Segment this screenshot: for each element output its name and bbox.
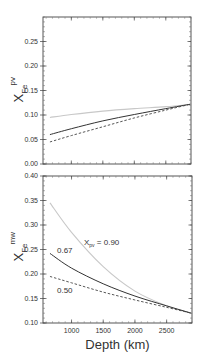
y-tick-label: 0.10 <box>24 319 38 326</box>
x-tick-label: 1000 <box>64 327 80 334</box>
plot-frame <box>43 17 191 164</box>
series-line <box>50 104 190 134</box>
y-tick-label: 0.30 <box>24 221 38 228</box>
y-tick-label: 0.35 <box>24 197 38 204</box>
chart-figure: 0.000.050.100.150.200.25XFepv 0.100.150.… <box>0 0 201 353</box>
y-tick-label: 0.40 <box>24 172 38 179</box>
y-tick-label: 0.20 <box>24 270 38 277</box>
bottom-panel: 0.100.150.200.250.300.350.40100015002000… <box>8 172 192 352</box>
top-panel: 0.000.050.100.150.200.25XFepv <box>8 17 191 167</box>
x-tick-label: 2500 <box>159 327 175 334</box>
series-line <box>50 104 190 117</box>
x-axis-title: Depth (km) <box>85 337 149 352</box>
x-tick-label: 2000 <box>127 327 143 334</box>
y-tick-label: 0.05 <box>24 136 38 143</box>
annotation-067: 0.67 <box>57 246 73 255</box>
annotation-050: 0.50 <box>57 286 73 295</box>
y-tick-label: 0.20 <box>24 62 38 69</box>
series-line <box>50 253 191 313</box>
y-axis-title: XFepv <box>8 77 29 102</box>
x-tick-label: 1500 <box>95 327 111 334</box>
y-tick-label: 0.00 <box>24 160 38 167</box>
y-tick-label: 0.10 <box>24 111 38 118</box>
annotation-xpv-090: Xpv = 0.90 <box>84 238 120 248</box>
y-tick-label: 0.25 <box>24 38 38 45</box>
y-axis-title: XFemw <box>8 232 29 262</box>
y-tick-label: 0.15 <box>24 295 38 302</box>
